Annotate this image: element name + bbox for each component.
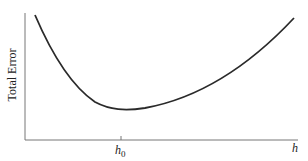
- total-error-chart: Total Error h0 h: [0, 0, 308, 161]
- total-error-curve: [35, 15, 294, 110]
- h0-subscript: 0: [121, 149, 126, 159]
- chart-plot: [0, 0, 308, 161]
- x-axis-label: h: [292, 141, 298, 156]
- y-axis-label: Total Error: [5, 49, 20, 102]
- x-tick-label-h0: h0: [115, 143, 126, 159]
